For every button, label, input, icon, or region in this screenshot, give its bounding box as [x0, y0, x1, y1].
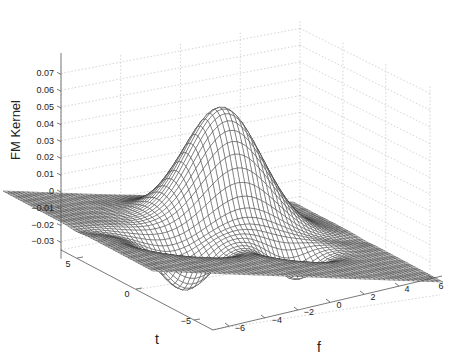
- f-tick-label: 2: [370, 292, 375, 302]
- z-tick-label: 0.03: [36, 136, 54, 146]
- z-tick-label: −0.02: [31, 220, 54, 230]
- z-tick-label: 0: [49, 186, 54, 196]
- plot-canvas: 0.070.060.050.040.030.020.010−0.01−0.02−…: [0, 0, 460, 362]
- f-axis-label: f: [317, 339, 321, 355]
- z-tick-label: 0.07: [36, 68, 54, 78]
- f-tick-label: 6: [438, 281, 443, 291]
- t-axis-label: t: [155, 331, 159, 347]
- f-tick-label: 0: [336, 300, 341, 310]
- t-tick-label: 0: [124, 289, 129, 299]
- f-tick-label: −2: [304, 307, 314, 317]
- f-tick-label: −6: [235, 323, 245, 333]
- surface-plot: 0.070.060.050.040.030.020.010−0.01−0.02−…: [0, 0, 460, 362]
- z-tick-label: −0.03: [31, 236, 54, 246]
- t-tick-label: −5: [181, 316, 191, 326]
- z-tick-label: 0.01: [36, 169, 54, 179]
- z-tick-label: 0.06: [36, 85, 54, 95]
- t-tick-label: 5: [65, 259, 70, 269]
- z-tick-label: 0.05: [36, 102, 54, 112]
- z-tick-label: −0.01: [31, 203, 54, 213]
- z-tick-label: 0.02: [36, 152, 54, 162]
- z-tick-label: 0.04: [36, 119, 54, 129]
- f-tick-label: −4: [272, 315, 282, 325]
- z-axis-label: FM Kernel: [8, 100, 23, 160]
- f-tick-label: 4: [404, 284, 409, 294]
